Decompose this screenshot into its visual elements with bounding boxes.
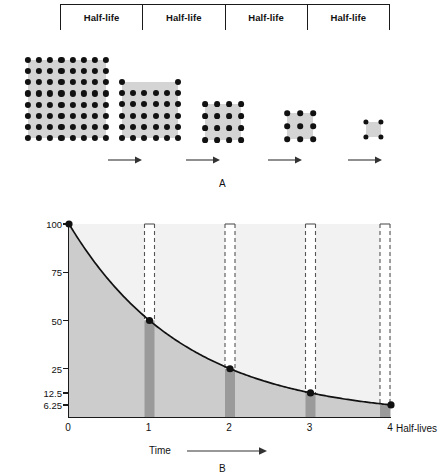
isotope-dot bbox=[92, 68, 98, 74]
isotope-dot bbox=[47, 124, 53, 130]
isotope-dot bbox=[92, 57, 98, 63]
isotope-dot bbox=[202, 125, 208, 131]
panel-a-label: A bbox=[219, 178, 226, 189]
decay-grid-dots-3 bbox=[287, 113, 313, 139]
halflife-cell-2: Half-life bbox=[226, 5, 308, 30]
dropline-column-3 bbox=[380, 224, 390, 417]
isotope-dot bbox=[69, 135, 75, 141]
plot-area bbox=[68, 224, 391, 418]
y-tick-label-75: 75 bbox=[18, 267, 62, 278]
isotope-dot bbox=[119, 113, 125, 119]
isotope-dot bbox=[226, 101, 232, 107]
isotope-dot bbox=[363, 134, 368, 139]
isotope-dot bbox=[175, 135, 181, 141]
isotope-dot bbox=[363, 119, 368, 124]
isotope-dot bbox=[25, 79, 31, 85]
halflife-cell-1: Half-life bbox=[143, 5, 225, 30]
isotope-dot bbox=[164, 135, 170, 141]
isotope-dot bbox=[119, 124, 125, 130]
isotope-dot bbox=[175, 101, 181, 107]
isotope-dot bbox=[36, 57, 42, 63]
isotope-dot bbox=[214, 113, 220, 119]
isotope-dot bbox=[81, 90, 87, 96]
decay-arrow-1 bbox=[186, 155, 220, 164]
x-tick-label-1: 1 bbox=[146, 422, 152, 433]
decay-grid-dots-4 bbox=[366, 122, 381, 137]
isotope-dot bbox=[81, 101, 87, 107]
isotope-dot bbox=[92, 135, 98, 141]
decay-grid-2 bbox=[205, 104, 241, 140]
isotope-dot bbox=[226, 137, 232, 143]
dropline-column-2 bbox=[306, 224, 316, 417]
time-direction-arrow bbox=[185, 445, 270, 457]
isotope-dot bbox=[238, 101, 244, 107]
x-tick-label-3: 3 bbox=[307, 422, 313, 433]
isotope-dot bbox=[238, 125, 244, 131]
decay-grid-3 bbox=[287, 113, 313, 139]
data-point-marker bbox=[65, 220, 72, 227]
isotope-dot bbox=[103, 68, 109, 74]
isotope-dot bbox=[164, 124, 170, 130]
isotope-dot bbox=[202, 113, 208, 119]
isotope-dot bbox=[92, 101, 98, 107]
isotope-dot bbox=[130, 113, 136, 119]
decay-arrow-3 bbox=[348, 155, 382, 164]
isotope-dot bbox=[310, 123, 316, 129]
isotope-dot bbox=[58, 101, 64, 107]
isotope-dot bbox=[47, 68, 53, 74]
remaining-bar bbox=[145, 321, 155, 418]
isotope-dot bbox=[103, 79, 109, 85]
isotope-dot bbox=[69, 90, 75, 96]
isotope-dot bbox=[36, 90, 42, 96]
isotope-dot bbox=[36, 135, 42, 141]
isotope-dot bbox=[36, 124, 42, 130]
isotope-dot bbox=[81, 135, 87, 141]
isotope-dot bbox=[130, 135, 136, 141]
isotope-dot bbox=[103, 101, 109, 107]
x-tick-label-0: 0 bbox=[65, 422, 71, 433]
isotope-dot bbox=[226, 125, 232, 131]
isotope-dot bbox=[58, 135, 64, 141]
isotope-dot bbox=[25, 90, 31, 96]
isotope-dot bbox=[25, 101, 31, 107]
y-tick-label-50: 50 bbox=[18, 315, 62, 326]
isotope-dot bbox=[297, 123, 303, 129]
isotope-dot bbox=[69, 57, 75, 63]
decay-grid-dots-0 bbox=[28, 60, 106, 138]
isotope-dot bbox=[310, 110, 316, 116]
x-tick-label-4: 4 bbox=[387, 422, 393, 433]
decay-grid-dots-2 bbox=[205, 104, 241, 140]
isotope-dot bbox=[47, 57, 53, 63]
isotope-dot bbox=[378, 134, 383, 139]
x-tick-label-2: 2 bbox=[226, 422, 232, 433]
decay-grid-0 bbox=[28, 60, 106, 138]
isotope-dot bbox=[25, 135, 31, 141]
isotope-dot bbox=[141, 135, 147, 141]
isotope-dot bbox=[214, 125, 220, 131]
isotope-dot bbox=[92, 113, 98, 119]
isotope-dot bbox=[175, 113, 181, 119]
isotope-dot bbox=[58, 113, 64, 119]
isotope-dot bbox=[47, 135, 53, 141]
isotope-dot bbox=[58, 57, 64, 63]
isotope-dot bbox=[92, 124, 98, 130]
isotope-dot bbox=[92, 90, 98, 96]
isotope-dot bbox=[81, 57, 87, 63]
x-axis-unit-label: Half-lives bbox=[396, 423, 437, 434]
data-point-marker bbox=[146, 317, 153, 324]
isotope-dot bbox=[81, 79, 87, 85]
isotope-dot bbox=[58, 124, 64, 130]
decay-grid-1 bbox=[122, 82, 178, 138]
isotope-dot bbox=[141, 124, 147, 130]
isotope-dot bbox=[141, 113, 147, 119]
isotope-dot bbox=[25, 124, 31, 130]
data-point-marker bbox=[226, 365, 233, 372]
isotope-dot bbox=[69, 124, 75, 130]
isotope-dot bbox=[25, 68, 31, 74]
isotope-dot bbox=[175, 79, 181, 85]
dropline-fill bbox=[380, 224, 390, 405]
isotope-dot bbox=[58, 68, 64, 74]
isotope-dot bbox=[153, 101, 159, 107]
isotope-dot bbox=[202, 101, 208, 107]
isotope-dot bbox=[81, 124, 87, 130]
